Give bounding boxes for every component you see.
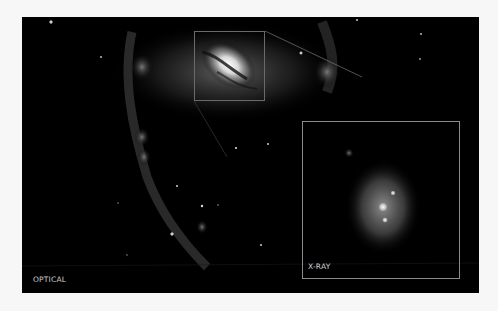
xray-inset-panel	[302, 121, 460, 279]
optical-label: OPTICAL	[33, 275, 66, 284]
xray-label: X-RAY	[308, 262, 331, 271]
optical-image-panel: OPTICAL X-RAY	[22, 17, 479, 293]
zoom-region-box	[194, 31, 265, 101]
